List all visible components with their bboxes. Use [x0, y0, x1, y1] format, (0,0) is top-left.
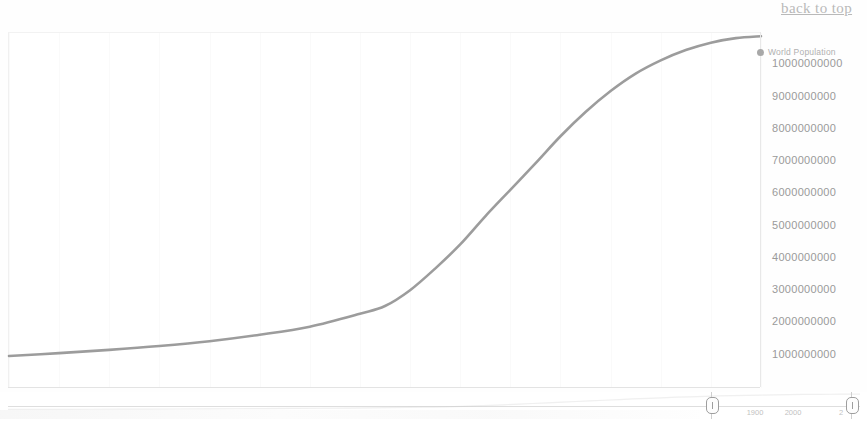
navigator-tick-label: 2	[839, 408, 843, 417]
back-to-top-link[interactable]: back to top	[781, 0, 867, 17]
y-axis-tick-label: 10000000000	[772, 57, 843, 69]
series-world-population-line[interactable]	[9, 36, 761, 356]
chart-container: World Population 10000000002000000000300…	[0, 20, 867, 390]
y-axis-tick-label: 7000000000	[772, 154, 836, 166]
circle-marker-icon	[757, 49, 764, 56]
navigator-series-line	[8, 394, 860, 409]
y-axis-tick-label: 1000000000	[772, 348, 836, 360]
chart-navigator[interactable]: 190020002	[0, 392, 867, 425]
y-axis-tick-label: 3000000000	[772, 283, 836, 295]
y-axis-tick-label: 6000000000	[772, 186, 836, 198]
y-axis-tick-label: 9000000000	[772, 90, 836, 102]
navigator-handle-left[interactable]	[705, 392, 719, 419]
y-axis-tick-label: 5000000000	[772, 219, 836, 231]
navigator-handle-icon[interactable]	[706, 397, 719, 414]
navigator-tick-label: 1900	[747, 408, 764, 417]
y-axis-tick-label: 2000000000	[772, 315, 836, 327]
y-axis-tick-label: 4000000000	[772, 251, 836, 263]
chart-y-axis-line	[760, 32, 761, 387]
gridline	[761, 33, 762, 388]
legend-item-label: World Population	[768, 47, 836, 57]
chart-x-axis-line	[8, 387, 760, 388]
navigator-handle-right[interactable]	[845, 392, 859, 419]
navigator-series-preview	[8, 392, 860, 412]
chart-plot-area[interactable]	[8, 32, 761, 388]
top-bar: back to top	[0, 0, 867, 19]
y-axis-tick-label: 8000000000	[772, 122, 836, 134]
navigator-tick-label: 2000	[785, 408, 802, 417]
navigator-handle-icon[interactable]	[846, 397, 859, 414]
chart-series-layer	[9, 33, 761, 388]
chart-legend[interactable]: World Population	[757, 47, 836, 57]
